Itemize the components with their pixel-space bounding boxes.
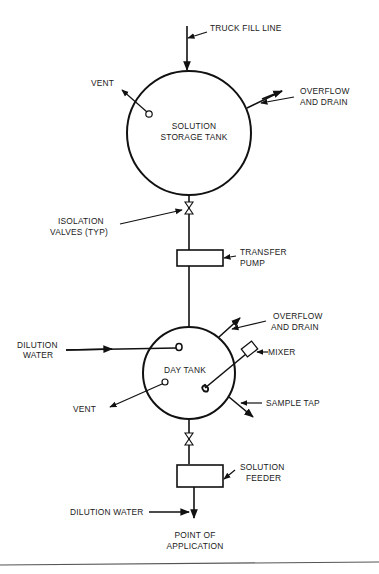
day-tank: DAY TANK: [143, 327, 235, 419]
mixer-motor-icon: [241, 341, 257, 357]
vent-day-tank: VENT: [73, 379, 168, 414]
point-of-application: POINT OF APPLICATION: [167, 530, 224, 551]
transfer-pump-label-line2: PUMP: [240, 258, 265, 268]
transfer-pump-label-line1: TRANSFER: [240, 247, 287, 257]
vent-lower-label: VENT: [73, 404, 96, 414]
dilution-upper-label-line1: DILUTION: [17, 340, 58, 350]
vent-port-icon: [162, 379, 168, 385]
isolation-label-line1: ISOLATION: [58, 216, 104, 226]
dilution-water-inlet-upper: DILUTION WATER: [17, 340, 182, 360]
nozzle-icon: [176, 344, 182, 351]
mixer-label: MIXER: [268, 347, 296, 357]
dilution-water-inlet-lower: DILUTION WATER: [70, 507, 189, 517]
sample-tap-label: SAMPLE TAP: [266, 398, 320, 408]
solution-feeder: SOLUTION FEEDER: [177, 462, 284, 487]
vent-top-label: VENT: [91, 78, 114, 88]
overflow-top-label-line1: OVERFLOW: [300, 86, 350, 96]
storage-tank-label-line1: SOLUTION: [172, 121, 216, 131]
day-tank-label: DAY TANK: [164, 365, 206, 375]
storage-tank-label-line2: STORAGE TANK: [160, 132, 227, 142]
overflow-lower-label-line2: AND DRAIN: [271, 322, 319, 332]
solution-storage-tank: SOLUTION STORAGE TANK: [127, 71, 251, 195]
isolation-valve-lower: [185, 433, 193, 445]
dilution-lower-label: DILUTION WATER: [70, 507, 144, 517]
isolation-valves-callout: ISOLATION VALVES (TYP): [50, 210, 182, 237]
feeder-label-line2: FEEDER: [246, 473, 281, 483]
truck-fill-line-label: TRUCK FILL LINE: [210, 23, 282, 33]
overflow-top-label-line2: AND DRAIN: [300, 97, 348, 107]
vent-storage-tank: VENT: [91, 78, 152, 117]
isolation-label-line2: VALVES (TYP): [50, 227, 108, 237]
truck-fill-line: TRUCK FILL LINE: [187, 23, 282, 70]
dilution-upper-label-line2: WATER: [23, 350, 53, 360]
overflow-drain-storage: OVERFLOW AND DRAIN: [247, 86, 350, 108]
feeder-label-line1: SOLUTION: [240, 462, 284, 472]
impeller-icon: [202, 385, 208, 392]
diagram-canvas: TRUCK FILL LINE SOLUTION STORAGE TANK VE…: [0, 0, 379, 574]
overflow-lower-label-line1: OVERFLOW: [273, 311, 323, 321]
point-label-line2: APPLICATION: [167, 541, 224, 551]
leader-arrow-icon: [188, 32, 207, 38]
mixer: MIXER: [202, 341, 295, 392]
page-divider: [0, 562, 379, 565]
point-label-line1: POINT OF: [175, 530, 216, 540]
overflow-drain-day-tank: OVERFLOW AND DRAIN: [219, 311, 323, 337]
isolation-valve-upper: [185, 202, 193, 214]
transfer-pump: TRANSFER PUMP: [177, 247, 287, 268]
sample-tap: SAMPLE TAP: [229, 397, 320, 417]
